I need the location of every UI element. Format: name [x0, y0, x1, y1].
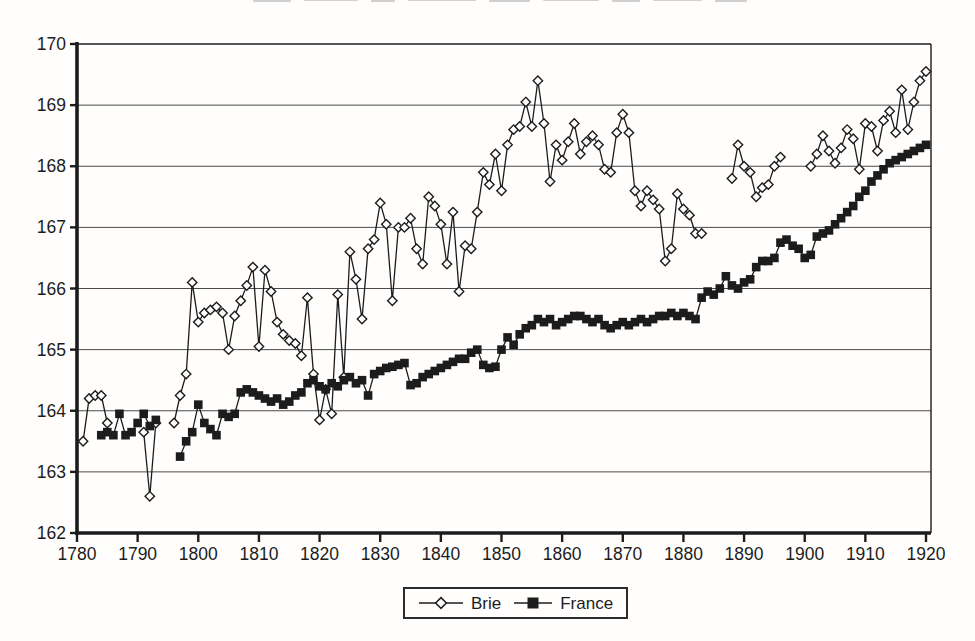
data-point-marker — [770, 162, 779, 171]
data-point-marker — [503, 333, 512, 342]
height-chart: 1621631641651661671681691701780179018001… — [0, 0, 975, 641]
data-point-marker — [716, 284, 725, 293]
legend-item-france: France — [513, 595, 613, 612]
data-point-marker — [794, 244, 803, 253]
data-point-marker — [424, 192, 433, 201]
x-tick-label: 1840 — [421, 544, 460, 564]
data-point-marker — [181, 369, 190, 378]
data-point-marker — [733, 140, 742, 149]
y-tick-label: 166 — [37, 279, 66, 299]
data-point-marker — [564, 137, 573, 146]
data-point-marker — [473, 345, 482, 354]
series-line — [732, 145, 781, 197]
series-france-markers — [97, 141, 930, 461]
data-point-marker — [491, 362, 500, 371]
data-point-marker — [557, 155, 566, 164]
data-point-marker — [551, 140, 560, 149]
data-point-marker — [97, 391, 106, 400]
data-point-marker — [194, 317, 203, 326]
data-point-marker — [897, 85, 906, 94]
data-point-marker — [915, 76, 924, 85]
y-tick-label: 170 — [37, 34, 66, 54]
data-point-marker — [879, 116, 888, 125]
y-tick-label: 164 — [37, 401, 66, 421]
data-point-marker — [842, 125, 851, 134]
data-point-marker — [806, 162, 815, 171]
data-point-marker — [345, 247, 354, 256]
x-tick-label: 1880 — [664, 544, 703, 564]
series-line — [180, 145, 926, 457]
data-point-marker — [527, 122, 536, 131]
x-tick-label: 1890 — [725, 544, 764, 564]
x-tick-label: 1920 — [907, 544, 946, 564]
data-point-marker — [654, 204, 663, 213]
data-point-marker — [594, 140, 603, 149]
data-point-marker — [412, 244, 421, 253]
data-point-marker — [903, 125, 912, 134]
data-point-marker — [230, 311, 239, 320]
data-point-marker — [873, 146, 882, 155]
data-point-marker — [812, 149, 821, 158]
data-point-marker — [351, 275, 360, 284]
data-point-marker — [836, 143, 845, 152]
y-tick-label: 162 — [37, 523, 66, 543]
x-tick-label: 1800 — [179, 544, 218, 564]
data-point-marker — [78, 437, 87, 446]
y-tick-label: 169 — [37, 95, 66, 115]
data-point-marker — [533, 76, 542, 85]
data-point-marker — [442, 259, 451, 268]
data-point-marker — [363, 244, 372, 253]
gridlines — [77, 105, 931, 472]
data-point-marker — [667, 244, 676, 253]
data-point-marker — [236, 296, 245, 305]
data-point-marker — [891, 128, 900, 137]
data-point-marker — [485, 180, 494, 189]
scanned-chart-page: 1621631641651661671681691701780179018001… — [0, 0, 975, 641]
data-point-marker — [103, 418, 112, 427]
y-tick-label: 163 — [37, 462, 66, 482]
data-point-marker — [473, 207, 482, 216]
x-tick-label: 1780 — [58, 544, 97, 564]
data-point-marker — [722, 272, 731, 281]
data-point-marker — [133, 419, 142, 428]
data-point-marker — [776, 152, 785, 161]
data-point-marker — [169, 418, 178, 427]
data-point-marker — [885, 107, 894, 116]
x-tick-label: 1870 — [603, 544, 642, 564]
data-point-marker — [297, 388, 306, 397]
data-point-marker — [497, 345, 506, 354]
data-point-marker — [824, 146, 833, 155]
data-point-marker — [727, 174, 736, 183]
filled-square-marker-icon — [513, 595, 553, 611]
data-point-marker — [618, 110, 627, 119]
data-point-marker — [612, 128, 621, 137]
open-diamond-marker-icon — [418, 595, 464, 611]
x-tick-label: 1900 — [785, 544, 824, 564]
x-axis-labels: 1780179018001810182018301840185018601870… — [58, 544, 946, 564]
data-point-marker — [636, 201, 645, 210]
data-point-marker — [152, 416, 161, 425]
data-point-marker — [770, 254, 779, 263]
data-point-marker — [806, 251, 815, 260]
data-point-marker — [175, 391, 184, 400]
data-point-marker — [861, 186, 870, 195]
data-point-marker — [697, 229, 706, 238]
data-point-marker — [400, 359, 409, 368]
y-axis-labels: 162163164165166167168169170 — [37, 34, 66, 543]
x-tick-label: 1790 — [118, 544, 157, 564]
data-point-marker — [849, 202, 858, 211]
x-tick-label: 1820 — [300, 544, 339, 564]
data-point-marker — [921, 67, 930, 76]
data-point-marker — [642, 186, 651, 195]
data-point-marker — [539, 119, 548, 128]
data-point-marker — [376, 198, 385, 207]
data-point-marker — [333, 290, 342, 299]
data-point-marker — [691, 315, 700, 324]
x-tick-label: 1910 — [846, 544, 885, 564]
data-point-marker — [115, 410, 124, 419]
data-point-marker — [545, 177, 554, 186]
data-point-marker — [406, 214, 415, 223]
data-point-marker — [752, 192, 761, 201]
data-point-marker — [746, 275, 755, 284]
x-tick-label: 1830 — [361, 544, 400, 564]
